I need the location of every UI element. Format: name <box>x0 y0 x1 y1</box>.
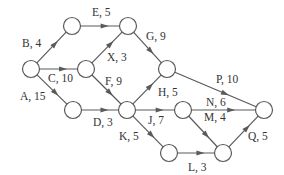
edges-layer <box>37 23 258 155</box>
node-n9 <box>161 145 178 162</box>
node-n5 <box>120 18 137 35</box>
edge-label: B, 4 <box>22 37 41 50</box>
edge-label: Q, 5 <box>248 130 268 143</box>
edge-label: L, 3 <box>188 161 207 174</box>
edge-label: E, 5 <box>92 6 111 19</box>
edge-l <box>178 150 215 155</box>
node-n10 <box>215 145 232 162</box>
edge-label: F, 9 <box>105 75 122 88</box>
node-n4 <box>65 102 82 119</box>
edge-label: N, 6 <box>206 96 226 109</box>
arrowhead-icon <box>227 107 235 112</box>
edge-label: H, 5 <box>158 86 178 99</box>
node-n1 <box>23 61 40 78</box>
arrowhead-icon <box>196 150 204 155</box>
edge-line <box>37 32 66 63</box>
edge-d <box>82 107 119 112</box>
node-n3 <box>78 61 95 78</box>
edge-label: G, 9 <box>146 30 166 43</box>
edge-h <box>133 75 161 104</box>
arrowhead-icon <box>59 66 67 71</box>
edge-label: C, 10 <box>48 72 73 85</box>
node-n7 <box>119 102 136 119</box>
arrowhead-icon <box>156 107 164 112</box>
edge-j <box>136 107 175 112</box>
edge-b <box>37 32 66 63</box>
node-n8 <box>175 102 192 119</box>
edge-label: D, 3 <box>93 116 113 129</box>
node-n11 <box>256 102 273 119</box>
edge-label: K, 5 <box>119 130 139 143</box>
arrowhead-icon <box>101 23 109 28</box>
edge-label: P, 10 <box>216 73 239 86</box>
edge-line <box>133 75 161 104</box>
edge-label: A, 15 <box>20 90 46 103</box>
edge-label: X, 3 <box>107 51 127 64</box>
node-n6 <box>159 61 176 78</box>
network-diagram: B, 4C, 10A, 15E, 5X, 3F, 9G, 9D, 3H, 5P,… <box>0 0 284 175</box>
edge-e <box>81 23 120 28</box>
edge-label: J, 7 <box>148 114 164 127</box>
arrowhead-icon <box>100 107 108 112</box>
node-n2 <box>64 18 81 35</box>
edge-c <box>40 66 78 71</box>
edge-label: M, 4 <box>204 111 226 124</box>
